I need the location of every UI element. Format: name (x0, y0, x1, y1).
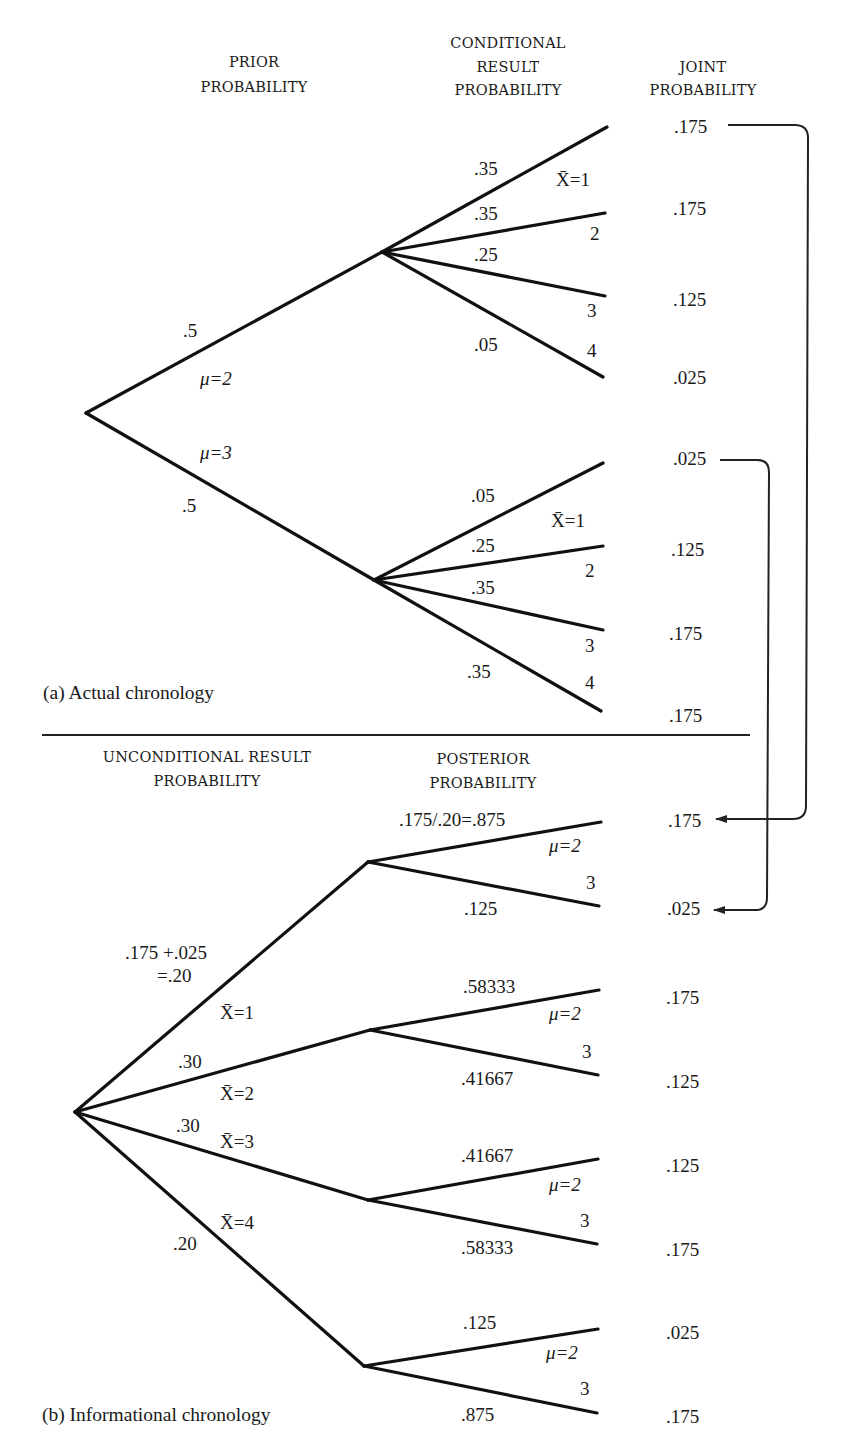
prior-prob-mu2: .5 (183, 320, 197, 341)
header-posterior-line1: POSTERIOR (436, 751, 530, 767)
joint-value: .025 (673, 448, 706, 469)
joint-value: .125 (671, 539, 704, 560)
header-joint-line1: JOINT (678, 59, 727, 75)
joint-value: .175 (674, 116, 707, 137)
state-label: 3 (582, 1041, 592, 1062)
header-joint-line2: PROBABILITY (650, 82, 757, 98)
conditional-group-mu3: .05 X̄=1 .25 2 .35 3 .35 4 (374, 463, 603, 711)
header-conditional-line1: CONDITIONAL (450, 35, 565, 51)
header-unconditional-line1: UNCONDITIONAL RESULT (103, 749, 312, 765)
connector-arrow-025 (714, 460, 769, 910)
joint-value: .175 (666, 1406, 699, 1427)
prior-state-mu3: μ=3 (199, 442, 232, 463)
result-label: 4 (585, 672, 595, 693)
header-unconditional-line2: PROBABILITY (154, 773, 261, 789)
caption-informational-chronology: (b) Informational chronology (42, 1404, 271, 1426)
cond-prob: .35 (467, 661, 491, 682)
result-label-x4: X̄=4 (220, 1212, 254, 1233)
joint-value: .025 (667, 898, 700, 919)
state-label: 3 (580, 1378, 590, 1399)
joint-value: .175 (669, 623, 702, 644)
header-prior-line2: PROBABILITY (201, 79, 308, 95)
branch-prior-mu2 (86, 252, 382, 413)
branch-prior-mu3 (86, 413, 374, 580)
branch-result-x1 (75, 862, 368, 1112)
part-b-headers: UNCONDITIONAL RESULT PROBABILITY POSTERI… (103, 749, 537, 791)
posterior-prob: .125 (464, 898, 497, 919)
posterior-prob: .58333 (461, 1237, 513, 1258)
posterior-prob: .41667 (461, 1145, 513, 1166)
result-label-x1: X̄=1 (220, 1002, 254, 1023)
joint-value: .175 (673, 198, 706, 219)
joint-value: .125 (666, 1071, 699, 1092)
result-label: 2 (585, 560, 595, 581)
prior-prob-mu3: .5 (182, 495, 196, 516)
posterior-prob: .41667 (461, 1068, 513, 1089)
posterior-group-x2: .58333 μ=2 3 .41667 (370, 976, 599, 1089)
joint-value: .125 (673, 289, 706, 310)
posterior-prob: .125 (463, 1312, 496, 1333)
part-b-joint-column: .175 .025 .175 .125 .125 .175 .025 .175 (666, 810, 701, 1427)
state-label: 3 (580, 1210, 590, 1231)
posterior-group-x4: .125 μ=2 3 .875 (364, 1312, 598, 1425)
joint-value: .175 (666, 1239, 699, 1260)
branch-cond-mu2-x4 (382, 252, 603, 377)
state-label: μ=2 (548, 1174, 581, 1195)
joint-value: .025 (666, 1322, 699, 1343)
posterior-prob: .175/.20=.875 (399, 809, 505, 830)
result-prob-x2: .30 (178, 1051, 202, 1072)
cond-prob: .25 (474, 244, 498, 265)
part-a-headers: PRIOR PROBABILITY CONDITIONAL RESULT PRO… (201, 35, 757, 98)
connector-arrow-175 (716, 125, 808, 819)
cond-prob: .35 (471, 577, 495, 598)
result-prob-x3: .30 (176, 1115, 200, 1136)
part-a-tree: .5 μ=2 μ=3 .5 .35 X̄=1 .35 2 .25 3 .05 4… (43, 116, 707, 726)
result-label: 2 (590, 223, 600, 244)
result-label-x2: X̄=2 (220, 1083, 254, 1104)
result-label: X̄=1 (551, 510, 585, 531)
posterior-group-x1: .175/.20=.875 μ=2 3 .125 (368, 809, 601, 919)
probability-tree-figure: PRIOR PROBABILITY CONDITIONAL RESULT PRO… (0, 0, 845, 1456)
cond-prob: .05 (474, 334, 498, 355)
joint-value: .025 (673, 367, 706, 388)
joint-value: .125 (666, 1155, 699, 1176)
header-conditional-line3: PROBABILITY (455, 82, 562, 98)
header-posterior-line2: PROBABILITY (430, 775, 537, 791)
result-label: 3 (585, 635, 595, 656)
header-conditional-line2: RESULT (477, 59, 540, 75)
joint-connectors (714, 125, 808, 910)
state-label: μ=2 (545, 1342, 578, 1363)
cond-prob: .25 (471, 535, 495, 556)
part-b-tree: .175 +.025 =.20 X̄=1 .30 X̄=2 .30 X̄=3 X… (42, 809, 701, 1427)
joint-value: .175 (669, 705, 702, 726)
result-prob-x1-line1: .175 +.025 (125, 942, 207, 963)
cond-prob: .35 (474, 158, 498, 179)
posterior-prob: .58333 (463, 976, 515, 997)
state-label: μ=2 (548, 1003, 581, 1024)
result-label: X̄=1 (556, 169, 590, 190)
branch-result-x3 (75, 1112, 368, 1200)
cond-prob: .05 (471, 485, 495, 506)
joint-value: .175 (666, 987, 699, 1008)
state-label: 3 (586, 872, 596, 893)
result-label-x3: X̄=3 (220, 1131, 254, 1152)
result-label: 4 (587, 340, 597, 361)
branch-cond-mu3-x4 (374, 580, 601, 711)
prior-state-mu2: μ=2 (199, 368, 232, 389)
caption-actual-chronology: (a) Actual chronology (43, 682, 214, 704)
cond-prob: .35 (474, 203, 498, 224)
result-label: 3 (587, 300, 597, 321)
conditional-group-mu2: .35 X̄=1 .35 2 .25 3 .05 4 (382, 127, 607, 377)
part-a-joint-column: .175 .175 .125 .025 .025 .125 .175 .175 (669, 116, 707, 726)
header-prior-line1: PRIOR (229, 54, 280, 70)
joint-value: .175 (668, 810, 701, 831)
posterior-group-x3: .41667 μ=2 3 .58333 (368, 1145, 598, 1258)
result-prob-x1-line2: =.20 (157, 965, 191, 986)
result-prob-x4: .20 (173, 1233, 197, 1254)
state-label: μ=2 (548, 835, 581, 856)
posterior-prob: .875 (461, 1404, 494, 1425)
